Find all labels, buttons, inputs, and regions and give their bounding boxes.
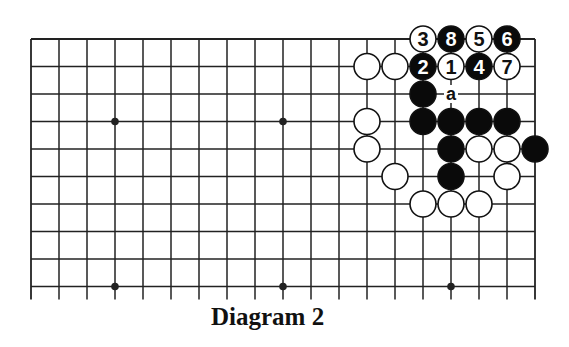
move-number-label: 1	[445, 56, 456, 78]
white-stone	[466, 136, 492, 162]
white-stone-1: 1	[438, 54, 464, 80]
white-stone-3: 3	[410, 26, 436, 52]
black-stone	[466, 109, 492, 135]
white-stone-5: 5	[466, 26, 492, 52]
black-stone	[438, 109, 464, 135]
white-stone	[382, 164, 408, 190]
black-stone-4: 4	[466, 54, 492, 80]
white-stone	[438, 191, 464, 217]
white-stone	[354, 136, 380, 162]
move-number-label: 8	[445, 28, 456, 50]
white-stone	[494, 136, 520, 162]
black-stone-6: 6	[494, 26, 520, 52]
move-number-label: 3	[417, 28, 428, 50]
go-board-diagram: 38562147 a	[0, 0, 569, 347]
white-stone	[494, 164, 520, 190]
move-number-label: 2	[417, 56, 428, 78]
move-number-label: 6	[501, 28, 512, 50]
white-stone	[466, 191, 492, 217]
black-stone-8: 8	[438, 26, 464, 52]
black-stone	[522, 136, 548, 162]
diagram-caption: Diagram 2	[211, 303, 324, 331]
white-stone	[354, 54, 380, 80]
white-stone	[382, 54, 408, 80]
star-point-icon	[111, 283, 119, 291]
star-point-icon	[447, 283, 455, 291]
white-stone	[410, 191, 436, 217]
star-point-icon	[111, 118, 119, 126]
move-number-label: 7	[501, 56, 512, 78]
black-stone	[438, 164, 464, 190]
black-stone	[494, 109, 520, 135]
markers-layer: a	[444, 84, 458, 104]
white-stone	[354, 109, 380, 135]
black-stone	[410, 109, 436, 135]
white-stone-7: 7	[494, 54, 520, 80]
point-marker-label: a	[446, 84, 457, 104]
black-stone	[438, 136, 464, 162]
star-point-icon	[279, 283, 287, 291]
star-point-icon	[279, 118, 287, 126]
black-stone	[410, 81, 436, 107]
move-number-label: 4	[473, 56, 485, 78]
black-stone-2: 2	[410, 54, 436, 80]
move-number-label: 5	[473, 28, 484, 50]
